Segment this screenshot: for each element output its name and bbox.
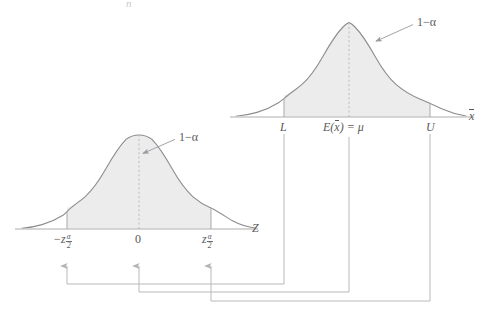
- xbar-area-annotation: 1−α: [417, 16, 436, 28]
- connector-U-to-pos-z: [211, 134, 430, 301]
- frac-numerator-pos: α: [207, 233, 213, 241]
- mean-var: x: [334, 120, 339, 134]
- frac-numerator: α: [66, 233, 72, 241]
- xbar-area-leader-line: [376, 25, 413, 42]
- mean-var-overline: [335, 120, 340, 121]
- frac-denominator-pos: 2: [207, 241, 213, 250]
- xbar-upper-limit-label: U: [426, 121, 435, 133]
- xbar-overline: [469, 109, 474, 110]
- z-axis-label: Z: [252, 222, 259, 234]
- xbar-axis-label: x: [469, 110, 474, 122]
- alpha-over-two-pos: α2: [207, 233, 213, 249]
- mean-suffix: ) = μ: [340, 120, 364, 134]
- panel-z-distribution: [15, 135, 258, 229]
- statistics-figure: n: [0, 0, 492, 319]
- neg-sign: −: [53, 232, 61, 246]
- alpha-over-two-neg: α2: [66, 233, 72, 249]
- xbar-lower-limit-label: L: [280, 121, 287, 133]
- panel-xbar-distribution: [230, 23, 474, 117]
- frac-denominator: 2: [66, 241, 72, 250]
- z-center-label: 0: [135, 233, 141, 245]
- mean-prefix: E(: [323, 120, 334, 134]
- z-upper-critical-label: zα2: [202, 233, 213, 249]
- z-area-annotation: 1−α: [179, 131, 198, 143]
- xbar-mean-label: E(x) = μ: [323, 121, 364, 133]
- figure-canvas: [0, 0, 492, 319]
- xbar-shaded-area: [284, 23, 430, 117]
- z-lower-critical-label: −zα2: [53, 233, 72, 249]
